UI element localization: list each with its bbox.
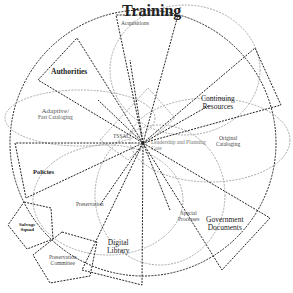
digital-wedge: [82, 143, 143, 285]
authorities-label: Authorities: [51, 68, 87, 76]
leadership-label: Leadership and Planning Core: [151, 140, 206, 152]
digital-library-label: Digital Library: [107, 239, 130, 255]
adaptive-ellipse: [5, 90, 155, 146]
policies-label: Policies: [33, 169, 54, 176]
tssac-label: TSSAC: [113, 134, 130, 140]
original-cataloging-label: Original Cataloging: [216, 136, 240, 148]
preservation-committee-label: Preservation Committee: [49, 255, 77, 267]
adaptive-label: Adaptive/ Fast Cataloging: [38, 108, 73, 121]
special-processes-label: Special Processes: [178, 211, 199, 223]
diagram-canvas: [0, 0, 293, 293]
training-label: Training: [122, 3, 181, 20]
salvage-squad-label: Salvage Squad: [19, 222, 35, 233]
government-documents-label: Government Documents: [206, 216, 244, 232]
continuing-resources-label: Continuing Resources: [201, 95, 235, 111]
preservation-label: Preservation: [76, 202, 104, 208]
acquisitions-label: Acquisitions: [121, 21, 149, 27]
